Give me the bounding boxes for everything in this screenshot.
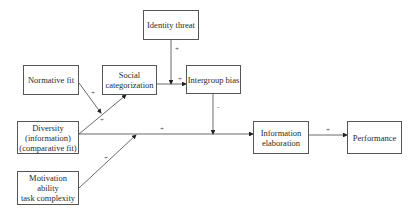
edge-sign: + <box>100 116 104 124</box>
edge-sign: + <box>175 45 179 53</box>
edge-sign: + <box>178 75 182 83</box>
node-performance: Performance <box>347 121 402 154</box>
edge-sign: + <box>326 126 330 134</box>
node-normative-fit: Normative fit <box>23 65 79 95</box>
edge-sign: + <box>104 154 108 162</box>
node-identity-threat: Identity threat <box>143 10 199 40</box>
node-diversity: Diversity (information) (comparative fit… <box>17 121 79 154</box>
node-intergroup-bias: Intergroup bias <box>186 65 241 94</box>
node-social-categorization: Social categorization <box>102 65 157 95</box>
edge-sign: - <box>217 103 219 111</box>
node-information-elaboration: Information elaboration <box>253 121 309 154</box>
node-motivation: Motivation ability task complexity <box>17 171 79 205</box>
edge-sign: + <box>91 89 95 97</box>
edge-sign: + <box>160 125 164 133</box>
